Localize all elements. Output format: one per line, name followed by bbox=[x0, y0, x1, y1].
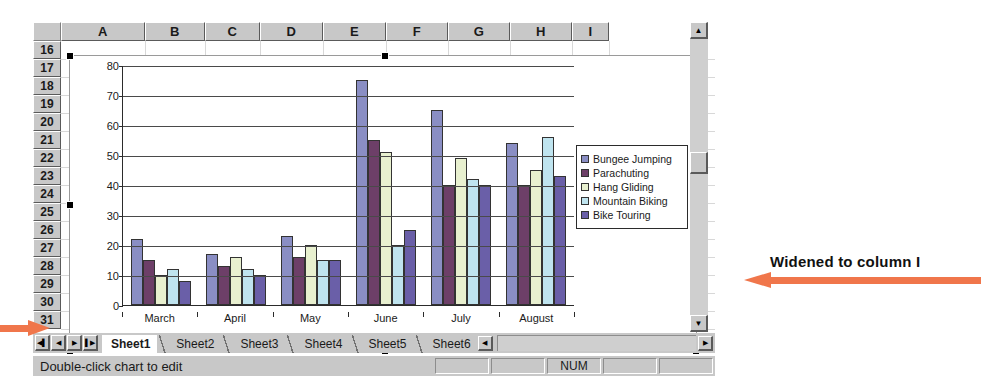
bar-parachuting[interactable] bbox=[218, 266, 230, 305]
row-header-27[interactable]: 27 bbox=[33, 239, 61, 257]
chart-gridline bbox=[123, 126, 574, 127]
row-header-19[interactable]: 19 bbox=[33, 95, 61, 113]
column-header-A[interactable]: A bbox=[61, 22, 145, 41]
bar-hang-gliding[interactable] bbox=[530, 170, 542, 305]
bar-mountain-biking[interactable] bbox=[542, 137, 554, 305]
bar-hang-gliding[interactable] bbox=[380, 152, 392, 305]
bar-mountain-biking[interactable] bbox=[167, 269, 179, 305]
column-header-G[interactable]: G bbox=[448, 22, 510, 41]
scroll-down-button[interactable]: ▼ bbox=[690, 315, 708, 332]
row-header-23[interactable]: 23 bbox=[33, 167, 61, 185]
tab-separator bbox=[414, 335, 424, 353]
row-header-label: 19 bbox=[40, 97, 53, 111]
row-header-21[interactable]: 21 bbox=[33, 131, 61, 149]
legend-item[interactable]: Bike Touring bbox=[581, 209, 683, 221]
bar-hang-gliding[interactable] bbox=[455, 158, 467, 305]
chart-y-tick-label: 70 bbox=[107, 90, 119, 102]
bar-bike-touring[interactable] bbox=[404, 230, 416, 305]
chart-handle-n[interactable] bbox=[381, 52, 389, 60]
scroll-up-button[interactable]: ▲ bbox=[690, 22, 708, 39]
row-header-20[interactable]: 20 bbox=[33, 113, 61, 131]
annotation-widened-arrowhead bbox=[744, 272, 771, 288]
sheet-tab-label: Sheet2 bbox=[176, 337, 214, 351]
sheet-tab-sheet5[interactable]: Sheet5 bbox=[360, 335, 414, 353]
column-header-I[interactable]: I bbox=[572, 22, 609, 41]
vertical-scroll-thumb[interactable] bbox=[690, 152, 708, 174]
row-header-17[interactable]: 17 bbox=[33, 59, 61, 77]
bar-bungee-jumping[interactable] bbox=[131, 239, 143, 305]
chart-plot-area: 01020304050607080 bbox=[122, 66, 574, 306]
column-headers: ABCDEFGHI bbox=[61, 22, 609, 41]
row-header-30[interactable]: 30 bbox=[33, 293, 61, 311]
legend-item[interactable]: Bungee Jumping bbox=[581, 153, 683, 165]
bar-mountain-biking[interactable] bbox=[392, 245, 404, 305]
tab-separator bbox=[285, 335, 295, 353]
bar-bike-touring[interactable] bbox=[554, 176, 566, 305]
chart-handle-w[interactable] bbox=[66, 201, 74, 209]
row-header-29[interactable]: 29 bbox=[33, 275, 61, 293]
sheet-tab-sheet4[interactable]: Sheet4 bbox=[295, 335, 349, 353]
bar-bungee-jumping[interactable] bbox=[356, 80, 368, 305]
bar-bungee-jumping[interactable] bbox=[206, 254, 218, 305]
sheet-tab-sheet6[interactable]: Sheet6 bbox=[424, 335, 478, 353]
bar-parachuting[interactable] bbox=[443, 185, 455, 305]
column-header-B[interactable]: B bbox=[145, 22, 205, 41]
row-header-label: 21 bbox=[40, 133, 53, 147]
bar-parachuting[interactable] bbox=[368, 140, 380, 305]
row-header-28[interactable]: 28 bbox=[33, 257, 61, 275]
bar-hang-gliding[interactable] bbox=[230, 257, 242, 305]
sheet-tab-sheet2[interactable]: Sheet2 bbox=[167, 335, 221, 353]
bar-parachuting[interactable] bbox=[293, 257, 305, 305]
bar-bike-touring[interactable] bbox=[479, 185, 491, 305]
horizontal-scrollbar[interactable] bbox=[497, 335, 696, 351]
vertical-scrollbar[interactable]: ▲ ▼ bbox=[690, 22, 708, 332]
tab-last-button[interactable]: ▌▶ bbox=[83, 335, 98, 351]
bar-parachuting[interactable] bbox=[143, 260, 155, 305]
chart-x-tick-mark bbox=[499, 312, 500, 317]
bar-bike-touring[interactable] bbox=[179, 281, 191, 305]
legend-item[interactable]: Hang Gliding bbox=[581, 181, 683, 193]
row-header-18[interactable]: 18 bbox=[33, 77, 61, 95]
tab-scroll-right-button[interactable]: ▶ bbox=[698, 336, 713, 351]
bar-bike-touring[interactable] bbox=[254, 275, 266, 305]
row-header-label: 18 bbox=[40, 79, 53, 93]
bar-hang-gliding[interactable] bbox=[155, 275, 167, 305]
tab-next-button[interactable]: ▶ bbox=[67, 335, 82, 351]
sheet-tab-label: Sheet5 bbox=[369, 337, 407, 351]
row-header-26[interactable]: 26 bbox=[33, 221, 61, 239]
tab-first-button[interactable]: ◀▌ bbox=[35, 335, 50, 351]
legend-item[interactable]: Parachuting bbox=[581, 167, 683, 179]
row-header-24[interactable]: 24 bbox=[33, 185, 61, 203]
status-cell-5 bbox=[659, 358, 713, 374]
tab-scroll-left-button[interactable]: ◀ bbox=[478, 336, 493, 351]
row-header-16[interactable]: 16 bbox=[33, 41, 61, 59]
legend-label: Hang Gliding bbox=[593, 181, 654, 193]
column-header-C[interactable]: C bbox=[205, 22, 260, 41]
sheet-tab-sheet1[interactable]: Sheet1 bbox=[102, 335, 157, 353]
row-header-label: 22 bbox=[40, 151, 53, 165]
row-header-25[interactable]: 25 bbox=[33, 203, 61, 221]
bar-bike-touring[interactable] bbox=[329, 260, 341, 305]
bar-bungee-jumping[interactable] bbox=[506, 143, 518, 305]
bar-mountain-biking[interactable] bbox=[242, 269, 254, 305]
row-header-label: 28 bbox=[40, 259, 53, 273]
chart-y-tick-mark bbox=[119, 216, 123, 217]
bar-hang-gliding[interactable] bbox=[305, 245, 317, 305]
sheet-tab-sheet3[interactable]: Sheet3 bbox=[231, 335, 285, 353]
bar-parachuting[interactable] bbox=[518, 185, 530, 305]
chart-legend[interactable]: Bungee JumpingParachutingHang GlidingMou… bbox=[576, 145, 688, 229]
column-header-E[interactable]: E bbox=[323, 22, 386, 41]
bar-mountain-biking[interactable] bbox=[317, 260, 329, 305]
legend-item[interactable]: Mountain Biking bbox=[581, 195, 683, 207]
row-header-22[interactable]: 22 bbox=[33, 149, 61, 167]
tab-prev-button[interactable]: ◀ bbox=[51, 335, 66, 351]
column-header-F[interactable]: F bbox=[386, 22, 448, 41]
column-header-D[interactable]: D bbox=[260, 22, 323, 41]
chart-handle-nw[interactable] bbox=[66, 52, 74, 60]
chart-gridline bbox=[123, 96, 574, 97]
select-all-corner[interactable] bbox=[33, 22, 61, 41]
row-header-label: 27 bbox=[40, 241, 53, 255]
bar-mountain-biking[interactable] bbox=[467, 179, 479, 305]
column-header-H[interactable]: H bbox=[510, 22, 572, 41]
embedded-chart[interactable]: 01020304050607080 MarchAprilMayJuneJulyA… bbox=[69, 55, 697, 352]
